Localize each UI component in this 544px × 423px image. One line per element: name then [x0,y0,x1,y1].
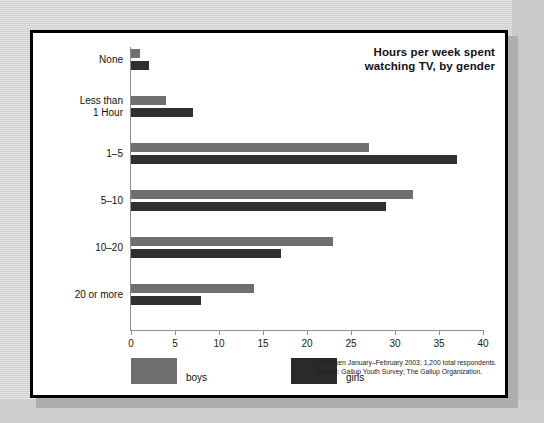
plot-area: 0510152025303540 NoneLess than1 Hour1–55… [33,33,505,395]
category-label: None [33,54,123,66]
source-note: Poll taken January–February 2003; 1,200 … [316,359,497,376]
bar-girls [131,249,281,258]
category-group: 1–5 [33,143,505,164]
x-axis-tick [439,330,440,335]
bar-girls [131,202,386,211]
category-group: 5–10 [33,190,505,211]
category-label-line: 20 or more [33,289,123,301]
bar-boys [131,143,369,152]
x-axis-tick [175,330,176,335]
x-axis-tick-label: 20 [301,338,312,349]
source-note-line-2: Source: Gallup Youth Survey; The Gallup … [316,368,497,377]
x-axis-tick-label: 25 [345,338,356,349]
chart-inner: Hours per week spent watching TV, by gen… [33,33,505,395]
category-label: 5–10 [33,195,123,207]
legend-swatch-boys [131,358,177,384]
category-label: 1–5 [33,148,123,160]
category-group: Less than1 Hour [33,96,505,117]
x-axis-tick [307,330,308,335]
x-axis-tick-label: 5 [172,338,178,349]
category-label-line: None [33,54,123,66]
x-axis-tick [395,330,396,335]
x-axis-tick-label: 0 [128,338,134,349]
category-group: 20 or more [33,284,505,305]
category-label-line: 1–5 [33,148,123,160]
category-label-line: 1 Hour [33,107,123,119]
x-axis-tick-label: 10 [213,338,224,349]
chart-panel: Hours per week spent watching TV, by gen… [30,30,508,398]
x-axis-tick-label: 15 [257,338,268,349]
x-axis-tick [219,330,220,335]
category-label: 10–20 [33,242,123,254]
bar-boys [131,96,166,105]
x-axis-tick-label: 35 [433,338,444,349]
x-axis-tick [351,330,352,335]
x-axis-tick [483,330,484,335]
bar-boys [131,237,333,246]
x-axis-tick-label: 40 [477,338,488,349]
x-axis-tick [263,330,264,335]
x-axis-tick-label: 30 [389,338,400,349]
legend-label-boys: boys [186,372,207,384]
bar-boys [131,284,254,293]
category-label-line: Less than [33,95,123,107]
bar-boys [131,190,413,199]
bar-girls [131,155,457,164]
x-axis-tick [131,330,132,335]
category-label-line: 5–10 [33,195,123,207]
category-label: 20 or more [33,289,123,301]
bar-girls [131,61,149,70]
legend-item-boys: boys [131,358,207,384]
bar-boys [131,49,140,58]
category-group: 10–20 [33,237,505,258]
category-group: None [33,49,505,70]
source-note-line-1: Poll taken January–February 2003; 1,200 … [316,359,497,368]
category-label: Less than1 Hour [33,95,123,118]
category-label-line: 10–20 [33,242,123,254]
bar-girls [131,296,201,305]
bar-girls [131,108,193,117]
